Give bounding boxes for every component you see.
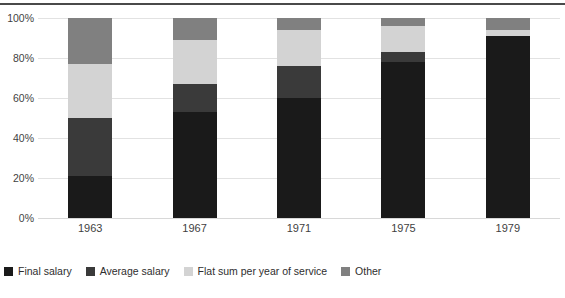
chart-plot-area: 100%80%60%40%20%0% 19631967197119751979 [0,18,565,240]
gridline [38,218,560,219]
bar-group[interactable] [486,18,530,218]
bar-segment[interactable] [381,52,425,62]
legend-label: Flat sum per year of service [198,265,328,277]
legend-item[interactable]: Final salary [4,265,72,277]
bar-segment[interactable] [381,26,425,52]
stacked-bar[interactable] [277,18,321,218]
bar-group[interactable] [381,18,425,218]
bar-segment[interactable] [277,98,321,218]
y-axis-tick-label: 40% [0,133,34,143]
legend-item[interactable]: Flat sum per year of service [184,265,328,277]
bar-group[interactable] [68,18,112,218]
bar-segment[interactable] [173,18,217,40]
legend-swatch-icon [184,267,193,276]
bar-segment[interactable] [277,30,321,66]
bar-segment[interactable] [173,84,217,112]
bar-segment[interactable] [277,66,321,98]
bar-segment[interactable] [173,40,217,84]
x-axis-tick-label: 1979 [456,222,560,235]
bar-segment[interactable] [68,176,112,218]
x-axis-tick-label: 1967 [142,222,246,235]
legend-label: Average salary [100,265,170,277]
y-axis-tick-label: 60% [0,93,34,103]
stacked-bar[interactable] [486,18,530,218]
bar-group[interactable] [277,18,321,218]
x-axis-tick-label: 1963 [38,222,142,235]
x-axis-tick-label: 1975 [351,222,455,235]
bars-container [38,18,560,218]
bar-segment[interactable] [381,62,425,218]
stacked-bar[interactable] [68,18,112,218]
chart-legend: Final salaryAverage salaryFlat sum per y… [4,265,395,277]
legend-label: Other [355,265,381,277]
y-axis-tick-label: 0% [0,213,34,223]
bar-segment[interactable] [68,64,112,118]
legend-swatch-icon [341,267,350,276]
top-divider-rule [0,3,565,5]
y-axis-tick-label: 20% [0,173,34,183]
bar-segment[interactable] [68,118,112,176]
bar-segment[interactable] [486,36,530,218]
bar-group[interactable] [173,18,217,218]
stacked-bar[interactable] [173,18,217,218]
bar-segment[interactable] [486,18,530,30]
bar-segment[interactable] [381,18,425,26]
legend-swatch-icon [86,267,95,276]
stacked-bar[interactable] [381,18,425,218]
bar-segment[interactable] [277,18,321,30]
legend-swatch-icon [4,267,13,276]
legend-label: Final salary [18,265,72,277]
legend-item[interactable]: Average salary [86,265,170,277]
x-axis-tick-label: 1971 [247,222,351,235]
bar-segment[interactable] [68,18,112,64]
legend-item[interactable]: Other [341,265,381,277]
bar-segment[interactable] [173,112,217,218]
y-axis-tick-label: 80% [0,53,34,63]
y-axis-tick-label: 100% [0,13,34,23]
